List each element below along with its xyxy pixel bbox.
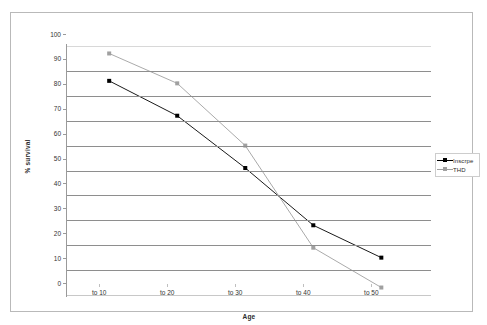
x-tick-label-2: to 20 bbox=[142, 289, 192, 297]
chart-legend: Inscrpe THD bbox=[435, 153, 480, 177]
data-point-s1-1[interactable] bbox=[107, 79, 111, 83]
x-tick-mark-2 bbox=[167, 284, 168, 287]
y-tick-mark-20 bbox=[63, 233, 66, 234]
gridline-80 bbox=[67, 96, 431, 97]
y-tick-label-90: 90 bbox=[35, 55, 61, 62]
y-tick-label-80: 80 bbox=[35, 80, 61, 87]
y-tick-mark-10 bbox=[63, 258, 66, 259]
chart-figure: % survival Age Inscrpe THD 0102030405060… bbox=[0, 0, 487, 325]
legend-label-series-1: Inscrpe bbox=[453, 158, 473, 164]
gridline-30 bbox=[67, 220, 431, 221]
y-tick-mark-70 bbox=[63, 109, 66, 110]
gridline-40 bbox=[67, 195, 431, 196]
data-point-s1-4[interactable] bbox=[311, 223, 315, 227]
x-tick-label-4: to 40 bbox=[278, 289, 328, 297]
y-tick-mark-50 bbox=[63, 159, 66, 160]
y-tick-mark-30 bbox=[63, 208, 66, 209]
data-point-s2-1[interactable] bbox=[107, 51, 111, 55]
y-tick-label-60: 60 bbox=[35, 130, 61, 137]
gridline-70 bbox=[67, 121, 431, 122]
y-tick-label-50: 50 bbox=[35, 155, 61, 162]
x-tick-mark-1 bbox=[99, 284, 100, 287]
x-tick-label-1: to 10 bbox=[74, 289, 124, 297]
y-tick-label-70: 70 bbox=[35, 105, 61, 112]
x-tick-mark-4 bbox=[303, 284, 304, 287]
y-tick-label-0: 0 bbox=[35, 280, 61, 287]
gridline-100 bbox=[67, 46, 431, 47]
x-tick-mark-3 bbox=[235, 284, 236, 287]
legend-label-series-2: THD bbox=[453, 167, 466, 173]
y-tick-mark-40 bbox=[63, 183, 66, 184]
x-axis-title: Age bbox=[67, 313, 431, 320]
y-tick-mark-80 bbox=[63, 84, 66, 85]
gridline-20 bbox=[67, 245, 431, 246]
gridline-10 bbox=[67, 270, 431, 271]
figure-frame: % survival Age Inscrpe THD 0102030405060… bbox=[10, 12, 473, 312]
legend-swatch-series-1 bbox=[437, 156, 453, 165]
legend-item-series-1[interactable]: Inscrpe bbox=[437, 156, 477, 165]
legend-swatch-series-2 bbox=[437, 165, 453, 174]
x-tick-label-3: to 30 bbox=[210, 289, 260, 297]
data-point-s2-4[interactable] bbox=[311, 246, 315, 250]
data-point-s1-2[interactable] bbox=[175, 114, 179, 118]
x-tick-mark-5 bbox=[371, 284, 372, 287]
legend-item-series-2[interactable]: THD bbox=[437, 165, 477, 174]
y-tick-label-10: 10 bbox=[35, 255, 61, 262]
y-tick-mark-0 bbox=[63, 283, 66, 284]
y-tick-label-100: 100 bbox=[35, 31, 61, 38]
y-axis-title: % survival bbox=[24, 127, 31, 187]
plot-area bbox=[67, 46, 431, 295]
x-tick-label-5: to 50 bbox=[346, 289, 396, 297]
data-point-s1-5[interactable] bbox=[379, 256, 383, 260]
gridline-50 bbox=[67, 171, 431, 172]
y-tick-label-40: 40 bbox=[35, 180, 61, 187]
y-tick-mark-100 bbox=[63, 34, 66, 35]
gridline-90 bbox=[67, 71, 431, 72]
gridline-60 bbox=[67, 146, 431, 147]
y-tick-label-20: 20 bbox=[35, 230, 61, 237]
y-tick-mark-60 bbox=[63, 134, 66, 135]
data-point-s1-3[interactable] bbox=[243, 166, 247, 170]
y-tick-label-30: 30 bbox=[35, 205, 61, 212]
data-point-s2-2[interactable] bbox=[175, 81, 179, 85]
y-tick-mark-90 bbox=[63, 59, 66, 60]
